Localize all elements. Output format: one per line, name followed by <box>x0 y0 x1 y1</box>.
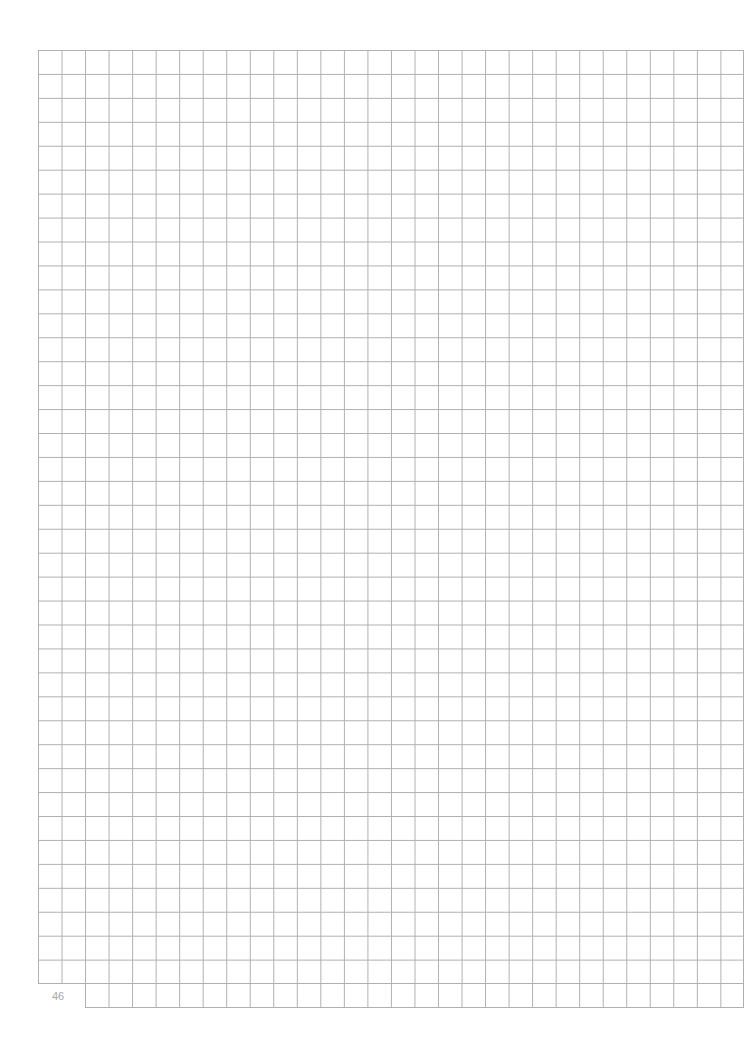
grid-paper <box>38 50 744 984</box>
page-number: 46 <box>52 990 64 1002</box>
grid-paper-last-row <box>85 984 744 1008</box>
